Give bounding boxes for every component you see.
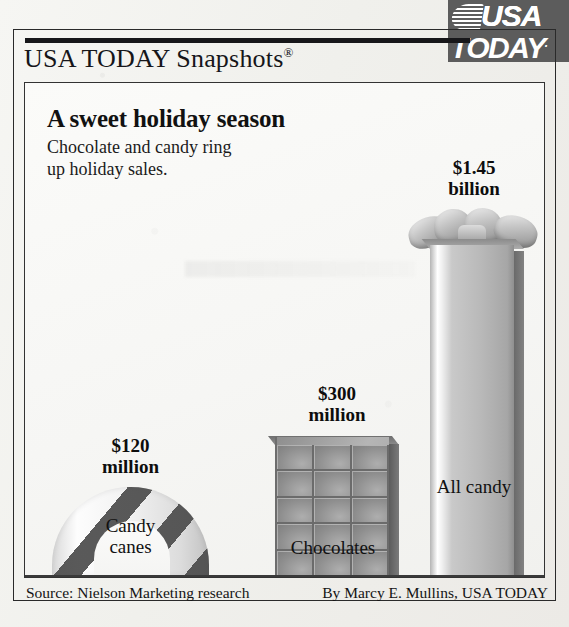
title-rule-divider	[25, 38, 470, 43]
value-label-all-candy: $1.45 billion	[412, 157, 536, 199]
value-label-chocolates: $300 million	[257, 383, 417, 425]
chocolate-square	[314, 445, 351, 471]
chocolate-square	[352, 471, 389, 497]
value-label-candy-canes: $120 million	[52, 435, 209, 477]
page-title: USA TODAY Snapshots®	[24, 44, 294, 74]
series-title-text: USA TODAY Snapshots	[24, 44, 284, 73]
chocolate-square	[352, 498, 389, 524]
chocolate-square	[277, 471, 314, 497]
chart-footer: Source: Nielson Marketing research By Ma…	[13, 582, 556, 601]
chart-subhead-line2: up holiday sales.	[47, 158, 231, 180]
chocolate-square	[314, 498, 351, 524]
category-label-candy-canes: Candy canes	[52, 515, 209, 557]
logo-text-usa: USA	[481, 1, 541, 31]
value-unit-chocolates: million	[257, 404, 417, 425]
chart-baseline	[25, 575, 544, 577]
bar-all-candy: $1.45 billion All candy	[430, 173, 524, 577]
value-amount-chocolates: $300	[257, 383, 417, 404]
all-candy-column-side-face	[514, 251, 524, 577]
usa-today-swirl-icon	[450, 4, 484, 30]
chart-subhead: Chocolate and candy ring up holiday sale…	[47, 136, 231, 180]
category-label-line1: Candy	[52, 515, 209, 536]
category-label-all-candy: All candy	[416, 476, 532, 498]
value-unit-all-candy: billion	[412, 178, 536, 199]
chocolate-square	[277, 498, 314, 524]
chocolate-square	[352, 445, 389, 471]
byline-text: By Marcy E. Mullins, USA TODAY	[322, 584, 548, 602]
chart-subhead-line1: Chocolate and candy ring	[47, 136, 231, 158]
bar-candy-canes: $120 million Candy canes	[52, 487, 209, 577]
chart-panel: A sweet holiday season Chocolate and can…	[24, 82, 545, 578]
chocolate-square	[277, 445, 314, 471]
source-text: Source: Nielson Marketing research	[26, 584, 249, 602]
value-amount-candy-canes: $120	[52, 435, 209, 456]
category-label-line2: canes	[52, 536, 209, 557]
registered-trademark-mark: ®	[284, 45, 294, 60]
chart-headline: A sweet holiday season	[47, 105, 285, 133]
category-label-chocolates: Chocolates	[253, 537, 413, 559]
value-unit-candy-canes: million	[52, 456, 209, 477]
bar-chocolates: $300 million Chocolates	[275, 437, 399, 577]
paper-bleedthrough	[185, 261, 415, 277]
all-candy-column	[430, 245, 514, 577]
chocolate-square	[314, 471, 351, 497]
value-amount-all-candy: $1.45	[412, 157, 536, 178]
